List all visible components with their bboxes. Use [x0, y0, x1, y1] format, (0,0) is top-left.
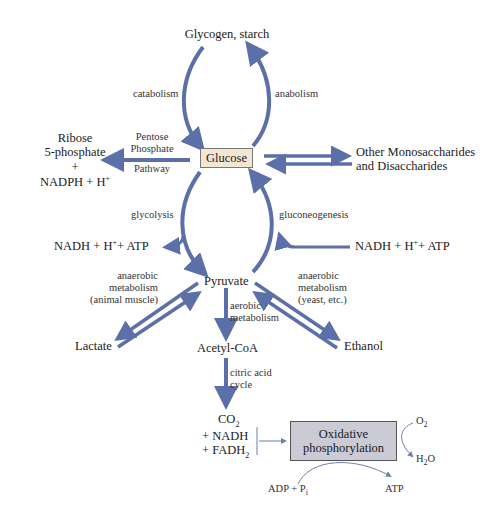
nadh-left-tail: + ATP	[117, 239, 149, 253]
node-acetyl-coa: Acetyl-CoA	[197, 341, 258, 355]
ox-line1: Oxidative	[291, 427, 396, 441]
nadh-line: + NADH	[202, 429, 249, 443]
node-o2: O2	[416, 415, 428, 429]
citric-line1: citric acid	[230, 367, 272, 379]
citric-line2: cycle	[230, 379, 272, 391]
o2-sub: 2	[424, 420, 428, 429]
o2-text: O	[416, 415, 424, 426]
other-line2: and Disaccharides	[356, 159, 475, 173]
node-nadh-left: NADH + H++ ATP	[54, 238, 149, 254]
label-anaerobic-yeast: anaerobic metabolism (yeast, etc.)	[298, 270, 347, 306]
nadh-right-text: NADH + H	[355, 239, 413, 253]
label-pathway: Pathway	[124, 163, 180, 175]
aerobic-line1: aerobic	[230, 300, 279, 312]
other-line1: Other Monosaccharides	[356, 145, 475, 159]
co2-line: CO2	[202, 412, 249, 429]
anaerobic-right-line2: metabolism	[298, 282, 347, 294]
pentose-line1: Pentose	[124, 131, 180, 143]
node-atp: ATP	[385, 483, 404, 495]
anaerobic-left-line3: (animal muscle)	[82, 294, 158, 306]
co2-sub: 2	[235, 420, 239, 429]
node-lactate: Lactate	[75, 339, 112, 353]
fadh-text: + FADH	[202, 443, 245, 457]
fadh-sub: 2	[245, 451, 249, 460]
ribose-line3: +	[38, 160, 112, 174]
node-pyruvate: Pyruvate	[204, 274, 248, 288]
label-citric-acid-cycle: citric acid cycle	[230, 367, 272, 391]
label-aerobic-metabolism: aerobic metabolism	[230, 300, 279, 324]
node-other-saccharides: Other Monosaccharides and Disaccharides	[356, 145, 475, 174]
h2o-o: O	[428, 453, 436, 464]
node-adp-pi: ADP + Pi	[268, 483, 308, 497]
anaerobic-right-line1: anaerobic	[298, 270, 347, 282]
nadph-text: NADPH + H	[40, 175, 105, 189]
label-catabolism: catabolism	[133, 88, 179, 100]
ribose-line1: Ribose	[38, 131, 112, 145]
nadph-sup: +	[105, 174, 110, 183]
node-co2-nadh-fadh2: CO2 + NADH + FADH2	[202, 412, 249, 460]
label-anaerobic-animal: anaerobic metabolism (animal muscle)	[82, 270, 158, 306]
ribose-line4: NADPH + H+	[38, 174, 112, 190]
nadh-left-text: NADH + H	[54, 239, 112, 253]
aerobic-line2: metabolism	[230, 312, 279, 324]
node-glycogen-starch: Glycogen, starch	[183, 27, 271, 41]
anaerobic-left-line1: anaerobic	[82, 270, 158, 282]
label-pentose-phosphate: Pentose Phosphate	[124, 131, 180, 155]
node-oxidative-phosphorylation: Oxidative phosphorylation	[290, 421, 397, 461]
node-h2o: H2O	[416, 453, 435, 467]
node-ribose-5-phosphate: Ribose 5-phosphate + NADPH + H+	[38, 131, 112, 190]
label-glycolysis: glycolysis	[131, 209, 174, 221]
label-gluconeogenesis: gluconeogenesis	[279, 209, 348, 221]
adp-text: ADP + P	[268, 483, 306, 494]
ox-line2: phosphorylation	[291, 441, 396, 455]
node-ethanol: Ethanol	[344, 339, 383, 353]
h2o-h: H	[416, 453, 424, 464]
anaerobic-left-line2: metabolism	[82, 282, 158, 294]
ribose-line2: 5-phosphate	[38, 145, 112, 159]
label-anabolism: anabolism	[275, 88, 318, 100]
pentose-line2: Phosphate	[124, 143, 180, 155]
co2-text: CO	[218, 412, 235, 426]
node-nadh-right: NADH + H++ ATP	[355, 238, 450, 254]
nadh-right-tail: + ATP	[418, 239, 450, 253]
adp-sub: i	[306, 488, 308, 497]
fadh-line: + FADH2	[202, 443, 249, 460]
anaerobic-right-line3: (yeast, etc.)	[298, 294, 347, 306]
node-glucose: Glucose	[200, 148, 253, 168]
